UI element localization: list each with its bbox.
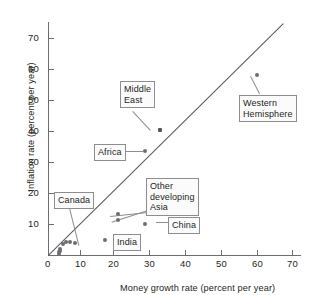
x-tick-label-10: 10 bbox=[75, 258, 86, 269]
y-axis-line bbox=[48, 22, 49, 256]
leader-line-china bbox=[156, 222, 168, 223]
data-point-cluster-3 bbox=[73, 241, 77, 245]
data-point-other-developing-asia bbox=[116, 212, 120, 216]
data-point-cluster-8 bbox=[57, 252, 61, 256]
x-tick-label-60: 60 bbox=[252, 258, 263, 269]
annotation-middle-east-line2: East bbox=[124, 95, 151, 106]
data-point-western-hemisphere bbox=[255, 73, 259, 77]
annotation-asia-line1: Other bbox=[150, 181, 195, 192]
annotation-asia-line3: Asia bbox=[150, 202, 195, 213]
x-tick-30 bbox=[149, 250, 150, 255]
data-point-middle-east bbox=[158, 128, 162, 132]
y-tick-label-70: 70 bbox=[28, 32, 39, 43]
annotation-china-text: China bbox=[172, 220, 196, 231]
x-tick-70 bbox=[292, 250, 293, 255]
annotation-canada[interactable]: Canada bbox=[54, 192, 94, 209]
x-tick-label-30: 30 bbox=[144, 258, 155, 269]
y-tick-70 bbox=[49, 38, 54, 39]
x-tick-60 bbox=[257, 250, 258, 255]
x-tick-20 bbox=[113, 250, 114, 255]
leader-line-western-hemisphere bbox=[250, 76, 260, 94]
annotation-other-developing-asia[interactable]: Other developing Asia bbox=[146, 178, 199, 216]
x-tick-50 bbox=[221, 250, 222, 255]
annotation-africa[interactable]: Africa bbox=[94, 144, 126, 161]
annotation-india[interactable]: India bbox=[113, 234, 141, 251]
y-tick-30 bbox=[49, 162, 54, 163]
x-axis-title: Money growth rate (percent per year) bbox=[120, 277, 275, 295]
forty-five-degree-line bbox=[48, 23, 284, 255]
data-point-cluster-4 bbox=[61, 242, 65, 246]
annotation-asia-line2: developing bbox=[150, 192, 195, 203]
x-tick-10 bbox=[80, 250, 81, 255]
x-axis-title-text: Money growth rate (percent per year) bbox=[120, 283, 275, 293]
x-tick-label-40: 40 bbox=[180, 258, 191, 269]
annotation-africa-text: Africa bbox=[98, 147, 122, 158]
annotation-western-hemisphere[interactable]: Western Hemisphere bbox=[239, 95, 297, 122]
annotation-middle-east-line1: Middle bbox=[124, 84, 151, 95]
y-tick-10 bbox=[49, 224, 54, 225]
y-tick-60 bbox=[49, 69, 54, 70]
x-tick-label-0: 0 bbox=[45, 258, 50, 269]
data-point-cluster-2 bbox=[68, 240, 72, 244]
x-tick-label-20: 20 bbox=[108, 258, 119, 269]
annotation-canada-text: Canada bbox=[58, 195, 90, 206]
x-tick-40 bbox=[185, 250, 186, 255]
y-tick-50 bbox=[49, 100, 54, 101]
annotation-western-line1: Western bbox=[243, 98, 293, 109]
annotation-india-text: India bbox=[117, 237, 137, 248]
y-tick-40 bbox=[49, 131, 54, 132]
leader-line-africa bbox=[125, 151, 143, 152]
annotation-china[interactable]: China bbox=[168, 217, 200, 234]
data-point-africa bbox=[143, 149, 147, 153]
data-point-cluster-asia-2 bbox=[116, 218, 120, 222]
data-point-india bbox=[103, 238, 107, 242]
y-tick-label-10: 10 bbox=[28, 218, 39, 229]
scatter-plot-figure: 70 60 50 40 30 20 10 0 10 20 30 40 50 60… bbox=[0, 0, 317, 295]
x-axis-line bbox=[48, 255, 301, 256]
x-tick-label-50: 50 bbox=[216, 258, 227, 269]
leader-line-middle-east bbox=[132, 111, 150, 131]
annotation-western-line2: Hemisphere bbox=[243, 109, 293, 120]
data-point-china bbox=[143, 222, 147, 226]
x-tick-label-70: 70 bbox=[287, 258, 298, 269]
annotation-middle-east[interactable]: Middle East bbox=[120, 81, 155, 108]
y-axis-title-text: Inflation rate (percent per year) bbox=[26, 62, 36, 191]
y-axis-title: Inflation rate (percent per year) bbox=[20, 52, 38, 202]
